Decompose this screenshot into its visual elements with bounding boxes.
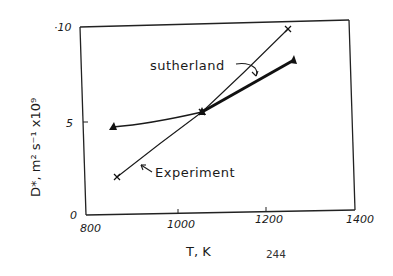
x-tick-label-1000: 1000: [167, 218, 195, 231]
x-marker-icon: [285, 26, 291, 32]
experiment-line: [117, 29, 288, 177]
y-axis-label: D*, m² s⁻¹ x10⁹: [28, 98, 43, 197]
plot-frame: [80, 20, 355, 215]
x-marker-icon: [114, 174, 120, 180]
y-tick-label-10: ·10: [54, 21, 72, 34]
x-tick-label-1400: 1400: [346, 213, 374, 226]
annotation-sutherland: sutherland: [150, 58, 225, 73]
triangle-marker-icon: [109, 122, 117, 130]
y-tick-label-0: 0: [70, 209, 77, 222]
x-tick-label-1200: 1200: [255, 213, 283, 226]
frame-right: [349, 20, 355, 210]
frame-bottom-x-axis: [86, 210, 355, 215]
sutherland-line-left: [113, 112, 202, 127]
annotation-experiment-arrow-icon: [141, 165, 152, 172]
x-axis-label: T, K: [185, 244, 211, 259]
frame-top: [80, 20, 349, 27]
annotation-experiment: Experiment: [155, 165, 235, 180]
triangle-marker-icon: [290, 55, 297, 64]
series-experiment: [114, 26, 291, 180]
chart-canvas: ·10 5 0 800 1000 1200 1400 T, K D*, m² s…: [0, 0, 393, 276]
frame-left-y-axis: [80, 27, 86, 215]
y-tick-label-5: 5: [66, 117, 73, 130]
page-number: 244: [266, 248, 286, 261]
x-tick-label-800: 800: [80, 222, 101, 235]
